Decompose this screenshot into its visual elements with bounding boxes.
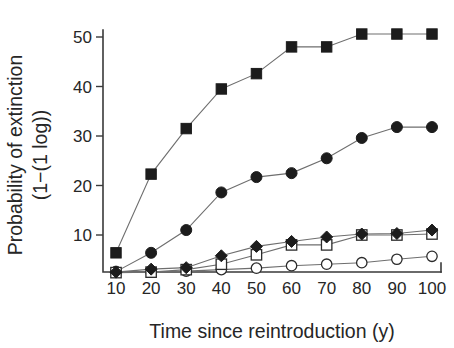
data-series-group — [110, 29, 438, 278]
x-tick-label: 70 — [317, 279, 336, 298]
x-tick-label: 20 — [142, 279, 161, 298]
x-tick-label: 30 — [177, 279, 196, 298]
data-point-filled-circle — [321, 153, 332, 164]
x-axis-title: Time since reintroduction (y) — [149, 320, 394, 342]
x-tick-label: 50 — [247, 279, 266, 298]
data-point-filled-circle — [356, 132, 367, 143]
y-tick-label: 40 — [73, 78, 92, 97]
data-point-open-circle — [357, 258, 367, 268]
data-point-filled-circle — [427, 122, 438, 133]
data-point-filled-square — [392, 29, 402, 39]
y-axis-title-line2: (1−(1 log)) — [29, 110, 51, 201]
data-point-filled-square — [111, 248, 121, 258]
y-axis-title-line1: Probability of extinction — [4, 55, 26, 256]
data-point-filled-circle — [391, 122, 402, 133]
y-tick-label: 50 — [73, 28, 92, 47]
series-filled-circle — [111, 122, 438, 278]
data-point-filled-square — [181, 123, 191, 133]
data-point-filled-square — [357, 29, 367, 39]
data-point-filled-square — [321, 42, 331, 52]
data-point-filled-circle — [216, 187, 227, 198]
data-point-filled-circle — [181, 225, 192, 236]
data-point-filled-square — [427, 29, 437, 39]
data-point-filled-square — [251, 68, 261, 78]
data-point-open-circle — [392, 254, 402, 264]
x-tick-label: 60 — [282, 279, 301, 298]
x-tick-label: 80 — [352, 279, 371, 298]
x-tick-label: 40 — [212, 279, 231, 298]
series-filled-square — [111, 29, 437, 258]
data-point-filled-square — [216, 84, 226, 94]
data-point-filled-circle — [286, 168, 297, 179]
y-tick-label: 10 — [73, 226, 92, 245]
x-tick-label: 100 — [418, 279, 446, 298]
series-open-square — [111, 229, 437, 278]
data-point-filled-square — [286, 42, 296, 52]
y-tick-label: 30 — [73, 127, 92, 146]
chart-axes — [103, 30, 441, 272]
x-tick-label: 90 — [387, 279, 406, 298]
data-point-filled-square — [146, 169, 156, 179]
series-open-circle — [111, 251, 437, 277]
y-tick-label: 20 — [73, 177, 92, 196]
series-filled-diamond — [110, 224, 438, 278]
data-point-filled-circle — [146, 247, 157, 258]
extinction-probability-line-chart: 1020304050 102030405060708090100 Time si… — [0, 0, 454, 348]
axis-ticks — [96, 37, 103, 235]
data-point-open-circle — [286, 260, 296, 270]
data-point-open-circle — [321, 259, 331, 269]
y-axis-tick-labels: 1020304050 — [73, 28, 92, 245]
x-axis-tick-labels: 102030405060708090100 — [107, 279, 447, 298]
data-point-open-circle — [251, 263, 261, 273]
data-point-filled-circle — [251, 172, 262, 183]
chart-figure: 1020304050 102030405060708090100 Time si… — [0, 0, 454, 348]
data-point-open-circle — [427, 251, 437, 261]
x-tick-label: 10 — [107, 279, 126, 298]
